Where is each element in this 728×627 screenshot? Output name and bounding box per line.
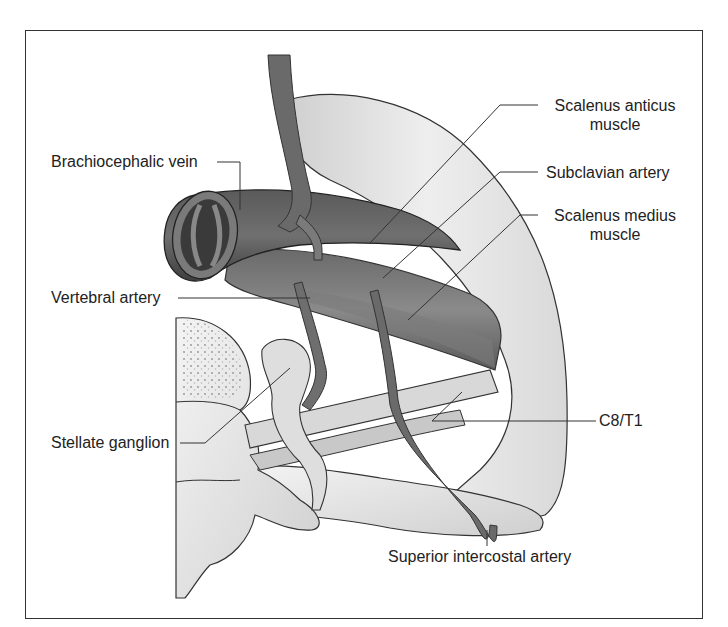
label-superior-intercostal-artery: Superior intercostal artery [388, 547, 571, 566]
label-brachiocephalic-vein: Brachiocephalic vein [51, 152, 198, 171]
label-scalenus-medius: Scalenus medius muscle [540, 206, 690, 244]
label-vertebral-artery: Vertebral artery [51, 288, 160, 307]
label-c8-t1: C8/T1 [599, 411, 643, 430]
label-scalenus-medius-line1: Scalenus medius [540, 206, 690, 225]
label-scalenus-anticus: Scalenus anticus muscle [540, 96, 690, 134]
anatomy-illustration [0, 0, 728, 627]
label-scalenus-anticus-line2: muscle [540, 115, 690, 134]
label-scalenus-medius-line2: muscle [540, 225, 690, 244]
label-stellate-ganglion: Stellate ganglion [51, 433, 169, 452]
label-subclavian-artery: Subclavian artery [546, 163, 670, 182]
label-scalenus-anticus-line1: Scalenus anticus [540, 96, 690, 115]
